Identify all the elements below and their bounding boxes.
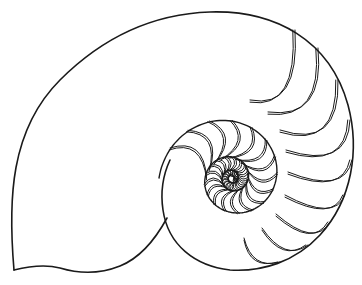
outer-septum-line (280, 80, 336, 136)
body-chamber-lower-edge (14, 218, 167, 272)
nautilus-illustration (0, 0, 362, 285)
nautilus-shell-drawing (0, 0, 362, 285)
outer-septum-line (250, 30, 295, 101)
septum-line (229, 127, 253, 159)
outer-septum-line (268, 48, 319, 113)
septum-line (169, 147, 207, 180)
spiral-whorl (159, 120, 277, 213)
outer-septum-line (288, 160, 350, 182)
outer-septum-line (286, 120, 350, 156)
outer-septum-line (276, 214, 330, 233)
outer-septum-line (262, 230, 306, 251)
outer-septum-line (244, 238, 280, 264)
septum-line (247, 174, 273, 192)
outer-septum-line (280, 80, 338, 134)
septum-line (170, 146, 207, 178)
outer-septum-line (250, 30, 293, 103)
septum-line (206, 171, 223, 180)
septum-line (216, 161, 225, 176)
septum-line (238, 141, 267, 162)
outer-septum-line (286, 120, 348, 157)
septum-line (230, 189, 239, 213)
